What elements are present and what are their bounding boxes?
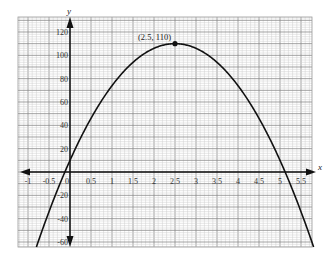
x-tick-label: 0 [65, 177, 69, 186]
x-tick-label: -0.5 [43, 177, 56, 186]
x-tick-label: 4 [236, 177, 240, 186]
x-tick-label: 3 [194, 177, 198, 186]
y-tick-label: -60 [57, 238, 68, 247]
x-tick-label: 2.5 [170, 177, 180, 186]
x-tick-label: 1.5 [128, 177, 138, 186]
vertex-label: (2.5, 110) [138, 32, 171, 42]
y-tick-label: -20 [57, 191, 68, 200]
x-tick-label: 5.5 [296, 177, 306, 186]
y-axis-label: y [66, 6, 71, 16]
y-tick-label: 80 [60, 75, 68, 84]
y-tick-label: 20 [60, 145, 68, 154]
y-tick-label: -40 [57, 215, 68, 224]
y-tick-label: 120 [56, 28, 68, 37]
y-tick-label: 40 [60, 121, 68, 130]
x-tick-label: 1 [110, 177, 114, 186]
x-axis-label: x [317, 162, 322, 172]
x-tick-label: 4.5 [254, 177, 264, 186]
y-tick-label: 60 [60, 98, 68, 107]
x-tick-label: 3.5 [212, 177, 222, 186]
vertex-marker [172, 41, 177, 46]
x-tick-label: 5 [278, 177, 282, 186]
x-tick-label: 2 [152, 177, 156, 186]
y-tick-label: 100 [56, 51, 68, 60]
x-tick-label: -1 [25, 177, 32, 186]
parabola-chart: -1-0.500.511.522.533.544.555.51201008060… [0, 0, 335, 257]
x-tick-label: 0.5 [86, 177, 96, 186]
